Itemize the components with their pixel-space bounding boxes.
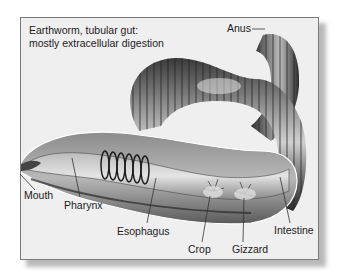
label-mouth: Mouth bbox=[24, 189, 53, 201]
label-pharynx: Pharynx bbox=[64, 199, 103, 211]
label-gizzard: Gizzard bbox=[232, 243, 268, 255]
label-crop: Crop bbox=[188, 243, 211, 255]
title-line-1: Earthworm, tubular gut: bbox=[29, 24, 164, 37]
label-intestine: Intestine bbox=[274, 224, 314, 236]
diagram-title: Earthworm, tubular gut: mostly extracell… bbox=[29, 24, 164, 49]
title-line-2: mostly extracellular digestion bbox=[29, 37, 164, 50]
label-esophagus: Esophagus bbox=[117, 225, 170, 237]
label-anus: Anus bbox=[227, 22, 251, 34]
